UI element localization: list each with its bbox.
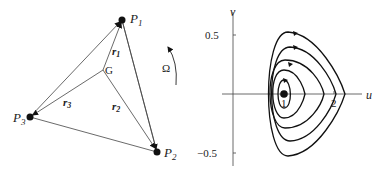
y-tick-label-pos: 0.5 bbox=[205, 29, 219, 41]
phase-plot: v u 0.5 −0.5 1 2 bbox=[197, 5, 372, 166]
label-p3: P3 bbox=[12, 110, 26, 127]
vector-r2 bbox=[103, 70, 155, 148]
label-omega: Ω bbox=[162, 62, 170, 74]
three-body-diagram bbox=[30, 20, 157, 152]
v-axis-label: v bbox=[230, 5, 236, 19]
flow-arrow-icon bbox=[288, 62, 293, 67]
flow-arrow-icon bbox=[293, 45, 298, 50]
label-p1: P1 bbox=[129, 11, 142, 28]
y-tick-label-neg: −0.5 bbox=[197, 147, 217, 159]
flow-arrow-icon bbox=[293, 31, 298, 36]
label-r2: r2 bbox=[112, 100, 120, 114]
label-p2: P2 bbox=[163, 145, 177, 162]
label-r3: r3 bbox=[63, 96, 71, 110]
side-p1-p2-arrow bbox=[122, 20, 156, 149]
label-r1: r1 bbox=[112, 45, 120, 59]
figure: P1 P2 P3 G r1 r2 r3 Ω v u 0.5 −0.5 1 2 bbox=[0, 0, 382, 175]
point-p1 bbox=[119, 17, 126, 24]
point-p2 bbox=[154, 149, 161, 156]
equilibrium-point bbox=[280, 90, 288, 98]
point-p3 bbox=[27, 114, 34, 121]
u-axis-label: u bbox=[366, 88, 372, 102]
label-centroid: G bbox=[105, 64, 113, 76]
